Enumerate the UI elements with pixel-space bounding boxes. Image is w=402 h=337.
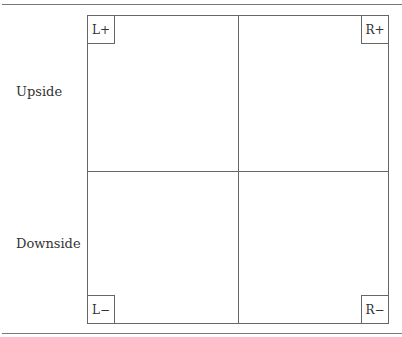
quadrant-grid: L+ R+ L− R−: [87, 15, 389, 324]
top-rule: [2, 4, 402, 5]
bottom-rule: [2, 333, 402, 334]
corner-label-bottom-left: L−: [87, 295, 115, 324]
corner-label-bottom-right: R−: [361, 295, 389, 324]
corner-label-top-left: L+: [87, 15, 115, 44]
corner-label-top-right: R+: [361, 15, 389, 44]
vertical-divider: [238, 16, 239, 323]
row-label-upside: Upside: [16, 84, 62, 99]
row-label-downside: Downside: [16, 236, 81, 251]
horizontal-divider: [88, 171, 388, 172]
